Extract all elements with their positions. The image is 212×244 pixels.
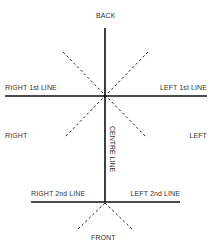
label-back: BACK (96, 12, 115, 19)
centre-point (103, 94, 106, 97)
label-right-2nd-line: RIGHT 2nd LINE (31, 190, 85, 197)
label-right: RIGHT (5, 132, 27, 139)
label-front: FRONT (91, 234, 116, 241)
label-left-2nd-line: LEFT 2nd LINE (131, 190, 180, 197)
dashed-front-left (105, 203, 134, 231)
label-left: LEFT (189, 132, 207, 139)
label-centre-line: CENTRE LINE (109, 126, 116, 172)
court-diagram (0, 0, 212, 244)
label-left-1st-line: LEFT 1st LINE (160, 84, 207, 91)
label-right-1st-line: RIGHT 1st LINE (5, 84, 57, 91)
dashed-front-right (76, 203, 105, 231)
